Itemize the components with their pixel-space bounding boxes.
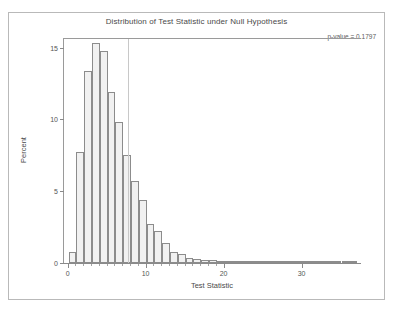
histogram-bar xyxy=(147,224,155,263)
x-axis-tick-label: 0 xyxy=(66,270,70,277)
histogram-bar xyxy=(131,181,139,263)
y-axis-tick-label: 5 xyxy=(54,188,58,195)
histogram-bar xyxy=(69,252,77,263)
y-axis-tick-label: 15 xyxy=(50,44,58,51)
y-axis-title: Percent xyxy=(19,137,28,163)
histogram-bar xyxy=(162,243,170,263)
x-axis-tick-label: 20 xyxy=(220,270,228,277)
x-axis-minor-tick xyxy=(177,264,178,266)
x-axis-minor-tick xyxy=(138,264,139,266)
x-axis-minor-tick xyxy=(122,264,123,266)
x-axis-minor-tick xyxy=(185,264,186,266)
x-axis-minor-tick xyxy=(114,264,115,266)
y-axis-tick-label: 10 xyxy=(50,116,58,123)
x-axis-minor-tick xyxy=(130,264,131,266)
histogram-bar xyxy=(154,231,162,263)
reference-line xyxy=(128,39,129,263)
y-axis-tick-label: 0 xyxy=(54,260,58,267)
x-axis-minor-tick xyxy=(200,264,201,266)
histogram-bar xyxy=(115,122,123,263)
x-axis-minor-tick xyxy=(91,264,92,266)
histogram-bar xyxy=(178,254,186,263)
y-axis-tick xyxy=(60,119,64,120)
chart-figure: Distribution of Test Statistic under Nul… xyxy=(8,12,385,300)
x-axis-minor-tick xyxy=(216,264,217,266)
x-axis-minor-tick xyxy=(107,264,108,266)
x-axis-tick-label: 10 xyxy=(142,270,150,277)
histogram-bars xyxy=(64,39,361,263)
x-axis-minor-tick xyxy=(99,264,100,266)
x-axis-minor-tick xyxy=(208,264,209,266)
histogram-bar xyxy=(139,200,147,263)
chart-title: Distribution of Test Statistic under Nul… xyxy=(9,17,384,26)
x-axis-title: Test Statistic xyxy=(63,281,361,290)
histogram-bar xyxy=(108,92,116,263)
x-axis-minor-tick xyxy=(192,264,193,266)
y-axis-tick xyxy=(60,48,64,49)
y-axis-tick xyxy=(60,191,64,192)
x-axis-tick xyxy=(146,264,147,268)
x-axis-tick-label: 30 xyxy=(298,270,306,277)
x-axis-minor-tick xyxy=(169,264,170,266)
histogram-bar xyxy=(100,51,108,264)
x-axis-minor-tick xyxy=(153,264,154,266)
plot-area: 051015 xyxy=(63,38,361,263)
histogram-bar xyxy=(92,43,100,263)
x-axis: 0102030 xyxy=(63,263,361,264)
x-axis-minor-tick xyxy=(75,264,76,266)
x-axis-tick xyxy=(302,264,303,268)
x-axis-tick xyxy=(68,264,69,268)
x-axis-minor-tick xyxy=(161,264,162,266)
x-axis-minor-tick xyxy=(83,264,84,266)
x-axis-tick xyxy=(224,264,225,268)
histogram-bar xyxy=(170,252,178,263)
histogram-bar xyxy=(84,71,92,263)
histogram-bar xyxy=(76,152,84,263)
